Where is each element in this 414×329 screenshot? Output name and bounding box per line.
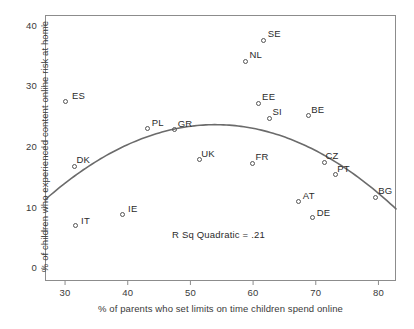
data-point-marker — [243, 59, 248, 64]
plot-area — [45, 15, 396, 281]
data-point-label: FR — [255, 151, 268, 162]
data-point-marker — [267, 116, 272, 121]
x-tick-label: 70 — [304, 287, 328, 298]
data-point-label: DK — [76, 154, 90, 165]
data-point-label: PL — [152, 117, 164, 128]
y-tick-label: 40 — [15, 20, 37, 31]
x-tick-label: 30 — [53, 287, 77, 298]
data-point-marker — [256, 101, 261, 106]
data-point-label: ES — [72, 90, 85, 101]
data-point-label: GR — [178, 118, 193, 129]
x-axis-title: % of parents who set limits on time chil… — [45, 303, 396, 314]
data-point-label: NL — [250, 49, 263, 60]
data-point-label: IE — [128, 203, 137, 214]
x-tick-label: 80 — [366, 287, 390, 298]
data-point-label: IT — [81, 215, 90, 226]
data-point-marker — [250, 161, 255, 166]
data-point-label: UK — [201, 148, 215, 159]
data-point-label: BE — [311, 104, 324, 115]
y-tick-label: 10 — [15, 202, 37, 213]
r-squared-annotation: R Sq Quadratic = .21 — [172, 229, 265, 240]
data-point-marker — [373, 195, 378, 200]
x-tick-label: 40 — [116, 287, 140, 298]
y-tick-label: 20 — [15, 141, 37, 152]
data-point-label: DE — [317, 207, 331, 218]
data-point-label: BG — [378, 185, 392, 196]
data-point-marker — [296, 199, 301, 204]
y-tick-label: 30 — [15, 80, 37, 91]
data-point-label: SI — [272, 106, 281, 117]
data-point-marker — [120, 212, 125, 217]
data-point-marker — [63, 99, 68, 104]
data-point-marker — [306, 113, 311, 118]
y-tick-label: 0 — [15, 262, 37, 273]
x-tick-label: 50 — [178, 287, 202, 298]
x-tick-label: 60 — [241, 287, 265, 298]
scatter-plot-figure: 010203040 304050607080 ESDKITIEPLGRUKNLE… — [0, 0, 414, 329]
data-point-label: SE — [268, 28, 281, 39]
y-axis-title: % of children who experienced content on… — [39, 17, 50, 277]
data-point-label: CZ — [326, 150, 339, 161]
data-point-label: EE — [262, 91, 275, 102]
data-point-label: AT — [303, 190, 315, 201]
data-point-label: PT — [337, 163, 350, 174]
data-point-marker — [73, 223, 78, 228]
